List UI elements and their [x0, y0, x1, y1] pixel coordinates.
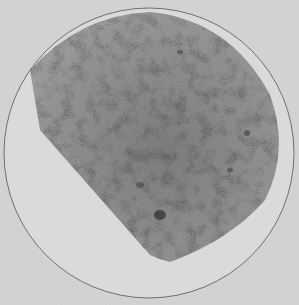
dense-cluster-knot	[244, 130, 250, 136]
dense-cluster-knot	[154, 210, 166, 220]
galaxy-map-figure	[0, 0, 299, 305]
galaxy-map-canvas	[0, 0, 299, 305]
dense-cluster-knot	[227, 168, 233, 173]
dense-cluster-knot	[177, 50, 183, 54]
dense-cluster-knot	[136, 182, 144, 188]
